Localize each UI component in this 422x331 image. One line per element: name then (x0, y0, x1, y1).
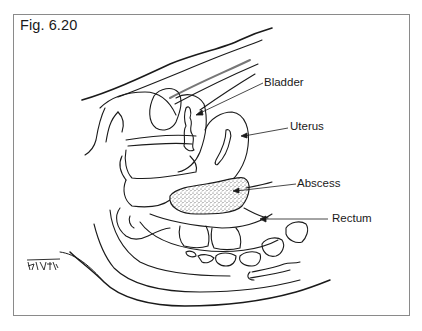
vertebra (216, 253, 236, 266)
pelvic-anatomy-illustration (0, 0, 422, 331)
vertebra (262, 238, 284, 256)
vertebra (179, 226, 209, 248)
vertebra (240, 252, 261, 266)
vertebra (211, 228, 241, 250)
label-rectum: Rectum (332, 212, 372, 224)
uterus-leader (244, 128, 288, 136)
vertebra (286, 222, 308, 243)
label-bladder: Bladder (264, 76, 304, 88)
label-abscess: Abscess (297, 177, 340, 189)
abscess (170, 178, 249, 214)
label-uterus: Uterus (290, 120, 324, 132)
artist-signature (27, 259, 60, 270)
